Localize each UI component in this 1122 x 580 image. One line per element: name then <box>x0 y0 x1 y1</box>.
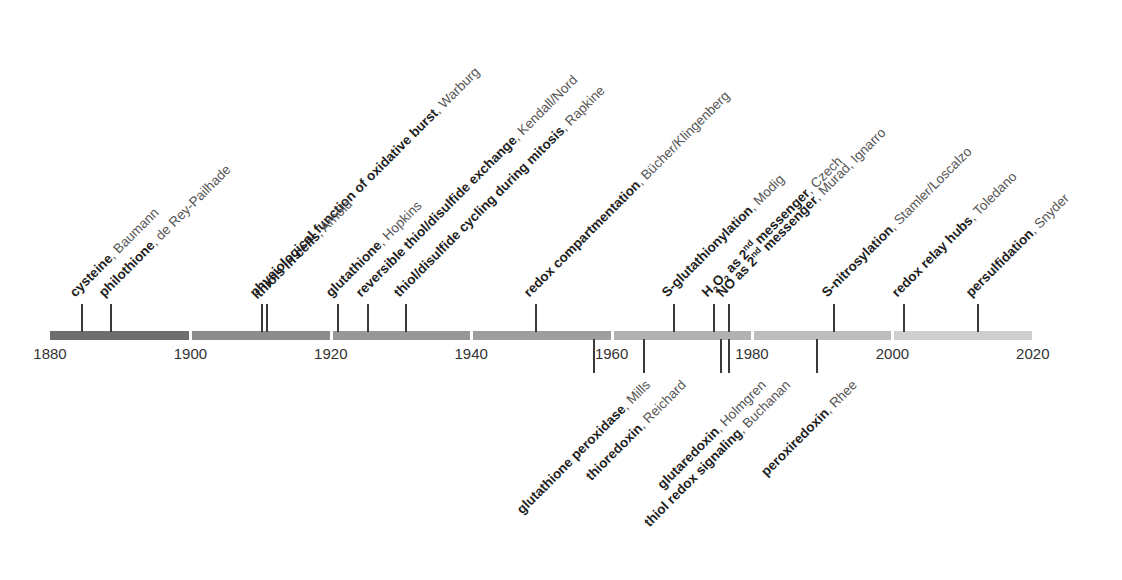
event-author: de Rey-Pailhade <box>152 162 233 243</box>
event-topic: NO as 2nd messenger <box>714 193 821 300</box>
event-topic: S-nitrosylation <box>819 222 896 299</box>
axis-segment-1980-2000 <box>754 331 891 340</box>
axis-segment-1880-1900 <box>50 331 189 340</box>
event-author: Bücher/Klingenberg <box>638 88 732 182</box>
event-tick <box>261 304 263 332</box>
redox-history-timeline: 18801900192019401960198020002020 cystein… <box>0 0 1122 580</box>
event-topic: peroxiredoxin <box>758 405 832 479</box>
event-tick <box>643 339 645 373</box>
year-label-1960: 1960 <box>595 345 628 362</box>
event-topic: persulfidation <box>963 226 1037 300</box>
year-label-2020: 2020 <box>1016 345 1049 362</box>
event-tick <box>593 339 595 373</box>
event-topic: thiols in cells <box>252 229 323 300</box>
event-tick <box>728 339 730 373</box>
axis-segment-1920-1940 <box>333 331 470 340</box>
event-tick <box>833 304 835 332</box>
event-label: glutathione peroxidase, Mills <box>514 378 652 516</box>
year-label-1920: 1920 <box>314 345 347 362</box>
event-tick <box>405 304 407 332</box>
year-label-1880: 1880 <box>33 345 66 362</box>
event-tick <box>728 304 730 332</box>
event-tick <box>535 304 537 332</box>
event-tick <box>903 304 905 332</box>
event-label: philothione, de Rey-Pailhade <box>96 163 233 300</box>
axis-segment-1900-1920 <box>192 331 329 340</box>
event-tick <box>367 304 369 332</box>
year-label-1900: 1900 <box>174 345 207 362</box>
event-tick <box>977 304 979 332</box>
event-tick <box>266 304 268 332</box>
event-tick <box>110 304 112 332</box>
axis-segment-1940-1960 <box>473 331 610 340</box>
year-label-1940: 1940 <box>455 345 488 362</box>
event-author: Rhee <box>827 377 860 410</box>
event-tick <box>81 304 83 332</box>
axis-segment-2000-2020 <box>894 331 1031 340</box>
event-tick <box>337 304 339 332</box>
event-author: Toledano <box>970 169 1019 218</box>
event-author: Snyder <box>1031 191 1072 232</box>
axis-segment-1960-1980 <box>614 331 751 340</box>
event-author: Modig <box>751 171 788 208</box>
event-tick <box>720 339 722 373</box>
event-tick <box>673 304 675 332</box>
year-label-1980: 1980 <box>735 345 768 362</box>
event-topic: redox compartmentation <box>521 177 644 300</box>
event-tick <box>816 339 818 373</box>
event-author: Warburg <box>436 64 483 111</box>
event-tick <box>713 304 715 332</box>
event-label: redox relay hubs, Toledano <box>889 170 1019 300</box>
year-label-2000: 2000 <box>876 345 909 362</box>
